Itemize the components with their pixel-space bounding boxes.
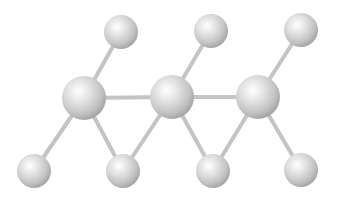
atoms-layer [17,13,318,188]
atom-large-c2 [150,75,194,119]
atom-small-t2 [194,14,228,48]
atom-small-t1 [104,15,138,49]
atom-small-b2 [106,154,140,188]
atom-large-c1 [62,76,106,120]
molecule-diagram [0,0,338,203]
atom-large-c3 [236,75,280,119]
atom-small-b1 [17,154,51,188]
atom-small-t3 [284,13,318,47]
atom-small-b4 [284,153,318,187]
atom-small-b3 [196,154,230,188]
